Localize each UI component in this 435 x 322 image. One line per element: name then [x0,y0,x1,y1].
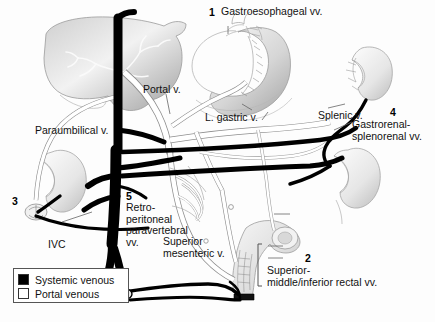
label-superior-mesenteric-vein: Superior mesenteric v. [163,236,225,259]
legend-item-systemic: Systemic venous [18,273,124,286]
callout-number-2: 2 [305,252,311,264]
label-left-gastric-vein: L. gastric v. [205,112,258,124]
left-kidney [346,47,392,100]
portal-venous-swatch-icon [18,288,29,299]
label-splenic-vein: Splenic v. [318,110,363,122]
legend: Systemic venous Portal venous [13,268,129,303]
callout-label-2: Superior- middle/inferior rectal vv. [267,265,377,288]
legend-label-systemic: Systemic venous [35,274,114,286]
callout-number-1: 1 [209,6,215,18]
label-inferior-vena-cava: IVC [48,239,66,251]
callout-number-4: 4 [390,106,396,118]
callout-label-1: Gastroesophageal vv. [221,6,322,18]
legend-label-portal: Portal venous [35,288,99,300]
left-lower-kidney [40,150,86,212]
label-paraumbilical-vein: Paraumbilical v. [35,125,108,137]
callout-number-3: 3 [12,195,18,207]
portosystemic-collateral-diagram: 1 Gastroesophageal vv. 4 Gastrorenal- sp… [0,0,435,322]
label-portal-vein: Portal v. [143,84,181,96]
rectum [233,221,300,300]
callout-label-4: Gastrorenal- splenorenal vv. [352,119,422,142]
systemic-venous-swatch-icon [18,274,29,285]
legend-item-portal: Portal venous [18,287,124,300]
